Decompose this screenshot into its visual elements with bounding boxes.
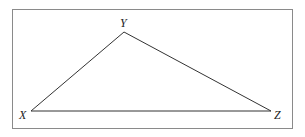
triangle-diagram: X Y Z <box>0 0 305 137</box>
vertex-label-x: X <box>18 108 27 122</box>
vertex-label-z: Z <box>274 108 281 122</box>
